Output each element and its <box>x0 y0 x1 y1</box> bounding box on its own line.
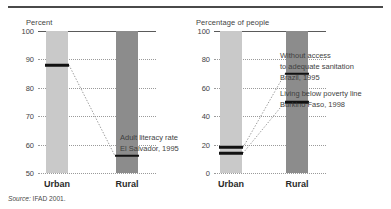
annotation-poverty: Living below poverty lineBurkino Faso, 1… <box>280 89 362 111</box>
value-marker-urban-0 <box>219 146 243 149</box>
y-tick-label-40: 40 <box>202 112 210 121</box>
header-rule <box>8 6 383 8</box>
annotation-sanitation-line-2: Brazil, 1995 <box>280 73 354 84</box>
annotation-adult-literacy: Adult literacy rateEl Salvador, 1995 <box>120 133 179 155</box>
connector-line-0 <box>243 74 285 148</box>
y-tick-label-50: 50 <box>26 169 34 178</box>
value-marker-urban-1 <box>219 152 243 155</box>
y-tick-label-60: 60 <box>202 83 210 92</box>
gridline-0 <box>214 173 326 174</box>
y-tick-label-100: 100 <box>21 27 34 36</box>
source-label: Source: <box>8 195 31 202</box>
source-text: IFAD 2001. <box>31 195 66 202</box>
category-label-urban: Urban <box>218 179 244 189</box>
annotation-adult-literacy-line-1: El Salvador, 1995 <box>120 144 179 155</box>
y-tick-label-100: 100 <box>197 27 210 36</box>
y-tick-label-70: 70 <box>26 112 34 121</box>
category-label-rural: Rural <box>285 179 308 189</box>
annotation-poverty-line-0: Living below poverty line <box>280 89 362 100</box>
y-tick-label-0: 0 <box>206 169 210 178</box>
source-note: Source: IFAD 2001. <box>8 195 66 202</box>
y-tick-label-80: 80 <box>202 55 210 64</box>
y-tick-label-90: 90 <box>26 55 34 64</box>
bar-urban <box>46 31 68 173</box>
category-label-rural: Rural <box>115 179 138 189</box>
annotation-sanitation: Without accessto adequate sanitationBraz… <box>280 51 354 84</box>
annotation-sanitation-line-0: Without access <box>280 51 354 62</box>
y-tick-label-20: 20 <box>202 140 210 149</box>
annotation-adult-literacy-line-0: Adult literacy rate <box>120 133 179 144</box>
annotation-sanitation-line-1: to adequate sanitation <box>280 62 354 73</box>
value-marker-urban-0 <box>45 64 69 67</box>
category-label-urban: Urban <box>44 179 70 189</box>
value-marker-rural-0 <box>115 155 139 158</box>
annotation-poverty-line-1: Burkino Faso, 1998 <box>280 100 362 111</box>
y-tick-label-60: 60 <box>26 140 34 149</box>
y-tick-label-80: 80 <box>26 83 34 92</box>
gridline-50 <box>38 173 156 174</box>
connector-line-0 <box>69 65 115 156</box>
